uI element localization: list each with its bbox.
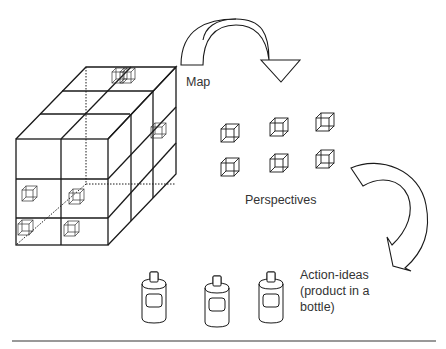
perspective-cube	[270, 118, 288, 136]
action-ideas-line-3: bottle)	[300, 299, 369, 315]
perspective-cube	[221, 158, 239, 176]
bottle	[205, 276, 229, 327]
action-ideas-label: Action-ideas (product in a bottle)	[300, 267, 369, 315]
bottle	[259, 272, 283, 323]
perspectives-grid	[221, 113, 334, 176]
embedded-perspective-cubes	[18, 68, 166, 236]
diagram-canvas	[0, 0, 446, 349]
map-label: Map	[186, 74, 210, 90]
perspectives-label: Perspectives	[245, 192, 317, 208]
arrow-perspectives-to-actions	[351, 163, 428, 271]
action-ideas-line-2: (product in a	[300, 283, 369, 299]
perspective-cube	[316, 150, 334, 168]
action-ideas-line-1: Action-ideas	[300, 267, 369, 283]
map-cube	[16, 67, 176, 245]
arrow-map-to-perspectives	[181, 19, 300, 82]
perspective-cube	[221, 124, 239, 142]
bottle	[142, 272, 166, 323]
perspective-cube	[316, 113, 334, 131]
perspective-cube	[270, 154, 288, 172]
action-ideas-bottles	[142, 272, 283, 327]
